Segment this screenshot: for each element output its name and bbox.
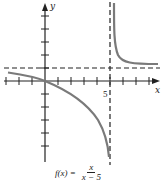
formula-fraction: x x − 5 (80, 163, 103, 182)
y-axis-label: y (49, 1, 56, 11)
function-formula: f(x) = x x − 5 (55, 163, 103, 182)
x-axis-arrow-icon (152, 78, 160, 84)
function-graph: y x 5 (0, 0, 162, 185)
curve-right-branch (114, 3, 158, 64)
x-axis-label: x (155, 85, 160, 95)
x-axis (4, 77, 160, 85)
y-axis-arrow-icon (42, 3, 48, 11)
tick-label-5: 5 (103, 89, 108, 99)
curve-left-branch (8, 73, 109, 158)
formula-lhs: f(x) = (55, 168, 76, 178)
formula-denominator: x − 5 (80, 173, 103, 182)
